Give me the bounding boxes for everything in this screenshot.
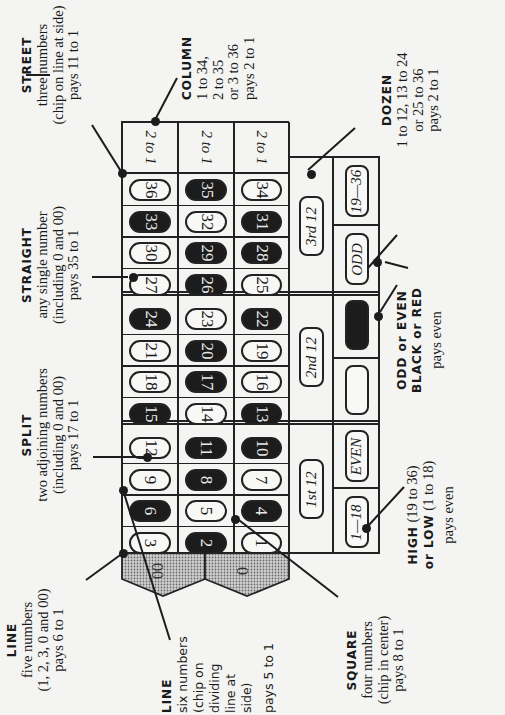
street-chip — [118, 169, 127, 178]
line-five-chip — [119, 549, 128, 558]
callout-odd-even: ODD or EVEN BLACK or RED pays even — [395, 265, 465, 415]
callout-square-title: SQUARE — [345, 605, 360, 715]
callout-straight: STRAIGHT any single number (including 0 … — [20, 190, 90, 340]
odd-chip — [373, 258, 382, 267]
straight-chip — [129, 273, 138, 282]
callout-split: SPLIT two adjoining numbers (including 0… — [20, 350, 90, 520]
callout-dozen-title: DOZEN — [380, 25, 395, 175]
black-chip — [374, 312, 383, 321]
callout-street: STREET three numbers (chip on line at si… — [20, 0, 90, 135]
line-six-chip — [119, 486, 128, 495]
callout-high-low: HIGH (19 to 36) or LOW (1 to 18) pays ev… — [405, 450, 475, 580]
callout-line-five-title: LINE — [5, 575, 20, 705]
callout-column: COLUMN 1 to 34, 2 to 35 or 3 to 36 pays … — [180, 0, 260, 100]
callout-line-five: LINE five numbers (1, 2, 3, 0 and 00) pa… — [5, 575, 75, 705]
callout-line-six-title: LINE — [160, 603, 175, 713]
callout-dozen: DOZEN 1 to 12, 13 to 24 or 25 to 36 pays… — [380, 25, 450, 175]
callout-column-title: COLUMN — [180, 0, 195, 100]
callout-street-title: STREET — [20, 0, 35, 135]
callout-split-title: SPLIT — [20, 350, 35, 520]
column-chip — [151, 117, 160, 126]
square-chip — [231, 515, 240, 524]
callout-odd-even-title-2: BLACK or RED — [410, 265, 425, 415]
dozen-chip — [307, 170, 316, 179]
low-chip — [362, 524, 371, 533]
callout-square: SQUARE four numbers (chip in center) pay… — [345, 605, 415, 715]
split-chip — [143, 453, 152, 462]
callout-line-six: LINE six numbers (chip on dividing line … — [160, 603, 266, 713]
callout-straight-title: STRAIGHT — [20, 190, 35, 340]
callout-odd-even-title-1: ODD or EVEN — [395, 265, 410, 415]
